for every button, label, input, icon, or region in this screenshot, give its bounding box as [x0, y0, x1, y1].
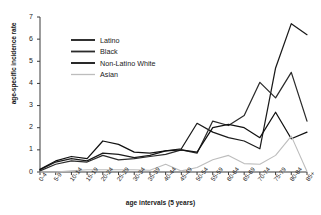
chart-figure: age-specific incidence rate age interval… — [0, 0, 321, 215]
plot-area — [0, 0, 321, 215]
legend-label-asian: Asian — [100, 70, 118, 79]
legend-swatches — [71, 40, 95, 75]
y-tick-label: 1 — [19, 145, 33, 152]
y-tick-label: 3 — [19, 101, 33, 108]
y-tick-label: 6 — [19, 35, 33, 42]
y-tick-label: 4 — [19, 79, 33, 86]
legend-label-latino: Latino — [100, 36, 120, 45]
y-tick-label: 5 — [19, 57, 33, 64]
y-tick-label: 2 — [19, 123, 33, 130]
y-tick-label: 0 — [19, 168, 33, 175]
y-tick-label: 7 — [19, 13, 33, 20]
data-series-group — [40, 24, 307, 172]
legend-label-black: Black — [100, 47, 118, 56]
legend-label-non-latino-white: Non-Latino White — [100, 59, 156, 68]
series-line-black — [40, 72, 307, 171]
series-line-latino — [40, 24, 307, 170]
